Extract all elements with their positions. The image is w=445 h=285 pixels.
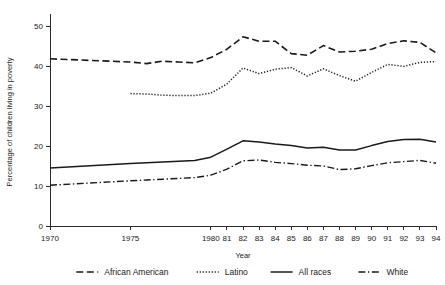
series-line-all-races [50,139,436,168]
series-line-latino [130,62,436,96]
y-tick-label: 30 [34,102,43,111]
y-axis-title: Percentage of children living in poverty [5,57,14,186]
legend-item-latino[interactable]: Latino [197,267,248,277]
x-tick-label: 84 [271,234,280,243]
y-tick-label: 50 [34,22,43,31]
legend-item-all-races[interactable]: All races [271,267,332,277]
y-tick-group: 01020304050 [34,22,50,231]
x-tick-label: 94 [432,234,441,243]
poverty-line-chart: 01020304050 Percentage of children livin… [0,0,445,285]
series-line-white [50,160,436,185]
x-tick-label: 85 [287,234,296,243]
series-group [50,37,436,185]
x-axis-title: Year [235,251,251,260]
x-tick-label: 1975 [122,234,140,243]
legend-label: Latino [225,267,248,277]
legend-item-white[interactable]: White [358,267,408,277]
legend-label: African American [104,267,169,277]
legend-item-african-american[interactable]: African American [76,267,169,277]
x-tick-group: 1970197519808182838485868788899091929394 [41,226,441,243]
x-tick-label: 82 [239,234,248,243]
x-tick-label: 93 [415,234,424,243]
y-tick-label: 10 [34,182,43,191]
y-tick-label: 0 [39,222,44,231]
x-tick-label: 1980 [202,234,220,243]
x-tick-label: 89 [351,234,360,243]
legend-label: White [386,267,408,277]
x-tick-label: 90 [367,234,376,243]
legend-label: All races [299,267,332,277]
x-tick-label: 88 [335,234,344,243]
x-tick-label: 92 [399,234,408,243]
y-tick-label: 40 [34,62,43,71]
x-tick-label: 83 [255,234,264,243]
x-tick-label: 81 [222,234,231,243]
y-axis: 01020304050 Percentage of children livin… [5,14,50,231]
x-tick-label: 91 [383,234,392,243]
chart-canvas: 01020304050 Percentage of children livin… [0,0,445,285]
y-tick-label: 20 [34,142,43,151]
chart-legend: African AmericanLatinoAll racesWhite [76,267,408,277]
x-tick-label: 86 [303,234,312,243]
x-axis: 1970197519808182838485868788899091929394… [41,226,441,260]
x-tick-label: 1970 [41,234,59,243]
x-tick-label: 87 [319,234,328,243]
series-line-african-american [50,37,436,64]
